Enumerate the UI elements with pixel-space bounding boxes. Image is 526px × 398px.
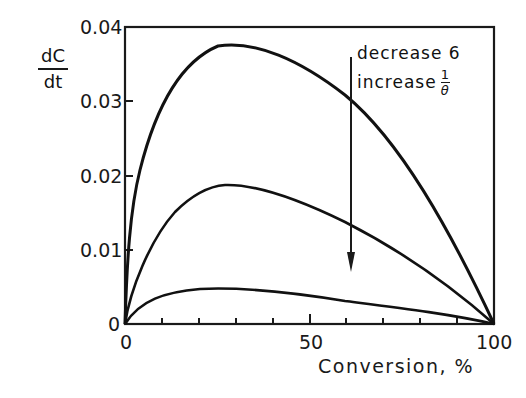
annotation-increase-text: increase: [357, 72, 437, 92]
y-axis-title-denominator: dt: [38, 73, 68, 91]
curve-mid: [125, 185, 494, 324]
fraction-denominator: θ: [441, 83, 450, 97]
fraction-numerator: 1: [441, 68, 450, 83]
y-tick-label: 0.04: [80, 18, 122, 37]
x-axis-title: Conversion, %: [318, 357, 474, 376]
annotation-fraction: 1θ: [441, 68, 450, 97]
annotation-increase: increase1θ: [357, 68, 450, 97]
arrow-down-icon: [347, 252, 355, 272]
y-tick-label: 0.03: [80, 92, 122, 111]
fraction-bar: [38, 68, 68, 70]
annotation-decrease: decrease 6: [357, 45, 461, 62]
y-tick-label: 0: [108, 315, 120, 334]
y-axis-title-numerator: dC: [38, 47, 68, 65]
y-axis-title: dC dt: [38, 47, 68, 91]
x-ticks: [162, 314, 457, 324]
x-tick-label: 50: [299, 333, 323, 352]
y-tick-label: 0.02: [80, 167, 122, 186]
y-tick-label: 0.01: [80, 241, 122, 260]
x-tick-label: 100: [476, 333, 512, 352]
x-tick-label: 0: [120, 333, 132, 352]
